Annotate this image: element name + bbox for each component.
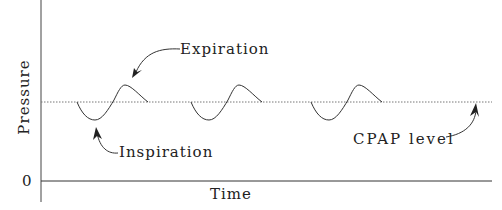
inspiration-label: Inspiration bbox=[119, 143, 213, 161]
cpap-level-label: CPAP level bbox=[353, 130, 455, 148]
x-axis-label: Time bbox=[210, 185, 252, 203]
cpap-pressure-diagram bbox=[0, 0, 502, 210]
expiration-label: Expiration bbox=[180, 40, 269, 58]
inspiration-arrow bbox=[93, 127, 118, 153]
y-axis-label: Pressure bbox=[15, 59, 33, 134]
y-zero-tick-label: 0 bbox=[22, 172, 33, 190]
expiration-arrow bbox=[132, 49, 180, 78]
